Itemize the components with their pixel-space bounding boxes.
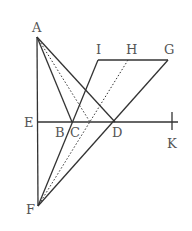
label-E: E bbox=[24, 115, 34, 130]
segment-AC bbox=[37, 37, 72, 122]
label-D: D bbox=[112, 125, 122, 140]
label-I: I bbox=[96, 42, 101, 57]
label-A: A bbox=[31, 20, 42, 35]
label-H: H bbox=[126, 42, 137, 57]
segment-AD bbox=[37, 37, 115, 122]
label-B: B bbox=[55, 125, 65, 140]
dotted-segment-A bbox=[37, 37, 90, 122]
label-K: K bbox=[167, 136, 177, 151]
label-G: G bbox=[164, 42, 174, 57]
label-C: C bbox=[70, 125, 80, 140]
diagram-canvas: A I H G E B C D K F bbox=[0, 0, 192, 231]
label-F: F bbox=[26, 202, 35, 217]
geometry-diagram: A I H G E B C D K F bbox=[0, 0, 192, 231]
segment-IF bbox=[38, 60, 98, 206]
